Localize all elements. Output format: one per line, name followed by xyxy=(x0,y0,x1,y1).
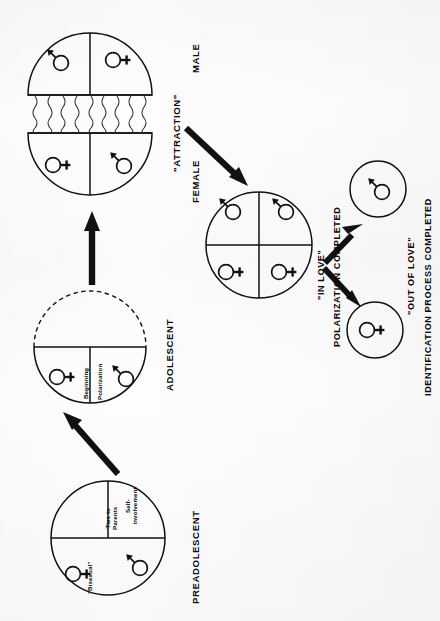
arrow-adolescent-to-attraction xyxy=(84,211,100,285)
diagram-artwork xyxy=(0,0,440,621)
stage-out-of-love-female-figure xyxy=(347,302,403,358)
label-ties-to-parents: Ties toParents xyxy=(104,507,119,530)
label-preadolescent: PREADOLESCENT xyxy=(190,510,201,604)
stage-attraction-figure xyxy=(28,33,152,195)
arrow-in-love-to-female xyxy=(324,268,361,307)
label-out-of-love: "OUT OF LOVE" xyxy=(406,237,416,315)
stage-out-of-love-male-figure xyxy=(350,161,406,217)
arrow-preadolescent-to-adolescent xyxy=(63,412,118,474)
label-polarization: Polarization xyxy=(96,364,103,400)
label-adolescent: ADOLESCENT xyxy=(164,319,175,391)
attraction-wavy-lines xyxy=(33,96,146,133)
label-identification-process-completed: IDENTIFICATION PROCESS COMPLETED xyxy=(423,198,433,396)
label-polarization-completed: POLARIZATION COMPLETED xyxy=(332,207,342,347)
label-bisexual: "Bisexual" xyxy=(86,562,93,594)
arrow-in-love-to-male xyxy=(325,224,363,263)
label-attraction-male: MALE xyxy=(190,43,201,73)
label-self-involvement: Self-involvement xyxy=(124,478,139,534)
stage-preadolescent-figure xyxy=(51,481,165,595)
diagram-page: "ATTRACTION" MALE FEMALE ADOLESCENT Begi… xyxy=(0,0,440,621)
label-beginning: Beginning xyxy=(82,368,89,399)
stage-in-love-figure xyxy=(206,192,312,298)
stage-adolescent-figure xyxy=(34,291,146,403)
label-in-love: "IN LOVE" xyxy=(316,250,326,300)
label-attraction: "ATTRACTION" xyxy=(171,94,182,172)
label-attraction-female: FEMALE xyxy=(190,160,201,203)
